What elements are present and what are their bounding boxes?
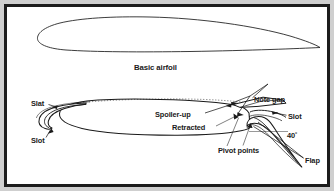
diagram-page: Basic airfoil Slat Slot Spoiler-up Retra…	[0, 0, 334, 191]
spoiler-up-label: Spoiler-up	[155, 111, 191, 118]
retracted-label: Retracted	[172, 124, 205, 131]
flap-leader-a	[258, 122, 304, 158]
note-gap-label: Note gap	[254, 96, 285, 103]
slot-left-label: Slot	[31, 137, 45, 144]
basic-airfoil-shape	[37, 17, 320, 52]
slat-label: Slat	[31, 100, 44, 107]
slot-right-label: Slot	[288, 113, 302, 120]
flap-label: Flap	[305, 157, 320, 164]
flap-shape	[247, 117, 302, 167]
pivot-points-label: Pivot points	[218, 147, 259, 154]
flap-angle-label: 40˚	[287, 132, 297, 139]
basic-airfoil-caption: Basic airfoil	[134, 64, 177, 72]
